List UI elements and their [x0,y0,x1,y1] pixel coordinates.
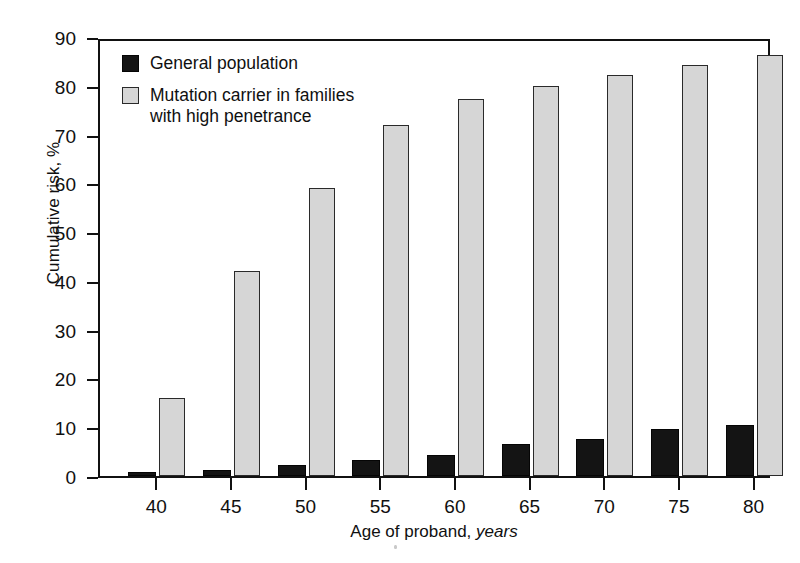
bar-mutation-carrier [757,55,783,476]
legend-label-general-population: General population [150,53,298,74]
bar-mutation-carrier [533,86,559,476]
x-axis-tick [678,478,680,490]
x-axis-tick-label: 55 [350,496,410,517]
bar-general-population [278,465,306,476]
bar-mutation-carrier [159,398,185,476]
bar-mutation-carrier [607,75,633,476]
bar-general-population [427,455,455,476]
y-axis-tick [87,282,98,284]
y-axis-title: Cumulative risk, % [44,63,64,363]
x-axis-tick [454,478,456,490]
x-axis-tick-label: 45 [201,496,261,517]
x-axis-tick [305,478,307,490]
y-axis-tick-label: 90 [32,29,76,48]
y-axis-tick-label: 50 [32,224,76,243]
bar-general-population [352,460,380,476]
bar-general-population [576,439,604,476]
y-axis-tick [87,379,98,381]
bar-chart-figure: Cumulative risk, % 0102030405060708090 G… [0,0,800,563]
bar-mutation-carrier [458,99,484,476]
y-axis-tick [87,184,98,186]
x-axis-tick [529,478,531,490]
bar-general-population [726,425,754,476]
x-axis-title: Age of proband, years [98,522,770,542]
chart-legend: General population Mutation carrier in f… [122,53,542,138]
bar-general-population [128,472,156,476]
y-axis-tick-label: 60 [32,175,76,194]
dark-square-swatch-icon [122,55,139,72]
x-axis-tick [603,478,605,490]
y-axis-tick-label: 30 [32,322,76,341]
x-axis-tick [379,478,381,490]
bar-general-population [203,470,231,476]
legend-label-mutation-carrier: Mutation carrier in families with high p… [150,85,354,127]
y-axis-tick-label: 20 [32,370,76,389]
y-axis-tick-label: 0 [32,468,76,487]
x-axis-tick-label: 65 [500,496,560,517]
scan-speck [394,545,397,549]
y-axis-tick [87,477,98,479]
legend-entry-mutation-carrier: Mutation carrier in families with high p… [122,85,542,127]
x-axis-title-prefix: Age of proband, [350,522,476,541]
y-axis-tick [87,38,98,40]
bar-mutation-carrier [383,125,409,476]
bar-general-population [502,444,530,476]
plot-frame: General population Mutation carrier in f… [98,39,770,478]
x-axis-tick-label: 70 [574,496,634,517]
bar-mutation-carrier [234,271,260,476]
y-axis-tick-label: 40 [32,273,76,292]
x-axis-tick-label: 80 [724,496,784,517]
y-axis-tick-label: 80 [32,78,76,97]
y-axis-tick-label: 10 [32,419,76,438]
x-axis-tick-label: 50 [276,496,336,517]
bar-mutation-carrier [309,188,335,476]
y-axis-tick [87,331,98,333]
bar-general-population [651,429,679,476]
y-axis-tick [87,428,98,430]
x-axis-tick-label: 75 [649,496,709,517]
y-axis-tick [87,136,98,138]
bar-mutation-carrier [682,65,708,476]
legend-entry-general-population: General population [122,53,542,74]
y-axis-tick [87,87,98,89]
x-axis-tick [230,478,232,490]
light-square-swatch-icon [122,87,139,104]
y-axis-tick [87,233,98,235]
x-axis-tick [753,478,755,490]
x-axis-tick-label: 40 [126,496,186,517]
x-axis-tick [155,478,157,490]
y-axis-tick-label: 70 [32,127,76,146]
x-axis-tick-label: 60 [425,496,485,517]
x-axis-title-emphasis: years [476,522,518,541]
